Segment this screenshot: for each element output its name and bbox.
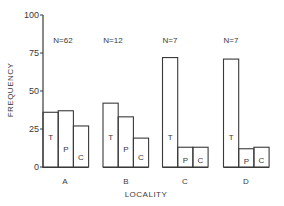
bar-p [58,111,73,167]
bar-letter: P [183,156,188,165]
bar-p [118,117,133,167]
sample-size-label: N=12 [103,36,123,45]
y-axis-title: FREQUENCY [6,62,15,117]
bar-t [163,58,178,167]
bar-group-d: TPC [224,59,270,167]
x-axis-title: LOCALITY [125,190,168,199]
x-category-label: B [123,177,128,186]
bar-letter: P [244,157,249,166]
bar-letter: C [138,153,144,162]
bar-letter: T [48,133,53,142]
y-tick-label: 50 [29,86,39,96]
bar-letter: C [78,153,84,162]
x-category-label: D [243,177,249,186]
y-tick-label: 100 [24,10,39,20]
bar-groups: TPCTPCTPCTPC [43,58,269,168]
bar-t [224,59,239,167]
bar-letter: C [198,156,204,165]
sample-size-label: N=62 [53,36,73,45]
chart: 0255075100 TPCTPCTPCTPC N=62N=12N=7N=7AB… [0,0,284,206]
bar-group-b: TPC [103,103,149,167]
sample-size-label: N=7 [224,36,239,45]
bar-letter: T [168,133,173,142]
sample-size-label: N=7 [163,36,178,45]
x-category-label: A [62,177,68,186]
y-tick-label: 25 [29,124,39,134]
y-axis: 0255075100 [24,10,43,172]
bar-letter: T [108,133,113,142]
bar-letter: P [123,145,128,154]
y-tick-label: 0 [34,162,39,172]
bar-letter: P [63,145,68,154]
bar-letter: C [259,156,265,165]
bar-group-c: TPC [163,58,209,168]
x-category-label: C [182,177,188,186]
bar-group-a: TPC [43,111,89,168]
bar-letter: T [229,133,234,142]
y-tick-label: 75 [29,48,39,58]
